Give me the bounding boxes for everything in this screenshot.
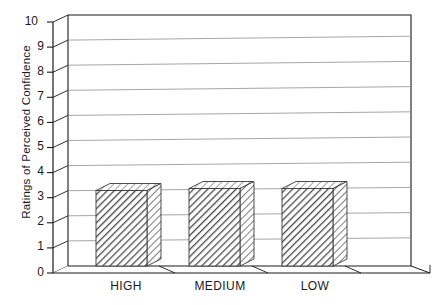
x-tick-labels: HIGH MEDIUM LOW — [0, 0, 443, 305]
x-tick-low: LOW — [285, 279, 345, 293]
x-tick-medium: MEDIUM — [180, 279, 260, 293]
x-tick-high: HIGH — [96, 279, 156, 293]
bar-chart: Ratings of Perceived Confidence — [0, 0, 443, 305]
